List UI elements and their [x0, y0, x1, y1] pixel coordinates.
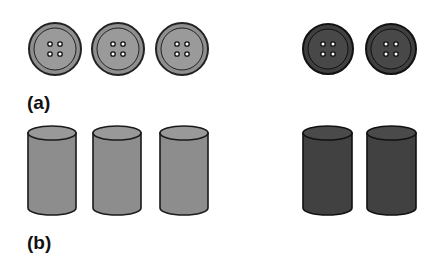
cylinder-icon: [160, 126, 208, 215]
button-hole: [384, 52, 388, 56]
button-icon: [29, 23, 81, 75]
button-hole: [185, 52, 189, 56]
button-icon: [366, 24, 416, 74]
button-hole: [331, 52, 335, 56]
button-hole: [121, 52, 125, 56]
panel-a-label: (a): [27, 93, 50, 112]
button-hole: [48, 52, 52, 56]
panel-a-buttons: [29, 23, 416, 75]
button-icon: [303, 24, 353, 74]
button-icon: [92, 23, 144, 75]
button-hole: [58, 42, 62, 46]
button-hole: [175, 42, 179, 46]
figure-canvas: [0, 0, 435, 264]
button-hole: [321, 52, 325, 56]
panel-b-cylinders: [28, 126, 416, 215]
button-hole: [185, 42, 189, 46]
cylinder-icon: [303, 126, 352, 215]
button-hole: [111, 42, 115, 46]
button-hole: [321, 42, 325, 46]
button-hole: [121, 42, 125, 46]
cylinder-icon: [93, 126, 141, 215]
button-hole: [175, 52, 179, 56]
panel-b-label: (b): [27, 233, 51, 252]
button-hole: [384, 42, 388, 46]
button-hole: [58, 52, 62, 56]
button-hole: [48, 42, 52, 46]
button-hole: [394, 42, 398, 46]
button-hole: [331, 42, 335, 46]
cylinder-icon: [28, 126, 76, 215]
figure: (a) (b): [0, 0, 435, 264]
cylinder-icon: [367, 126, 416, 215]
button-hole: [111, 52, 115, 56]
button-hole: [394, 52, 398, 56]
button-icon: [156, 23, 208, 75]
